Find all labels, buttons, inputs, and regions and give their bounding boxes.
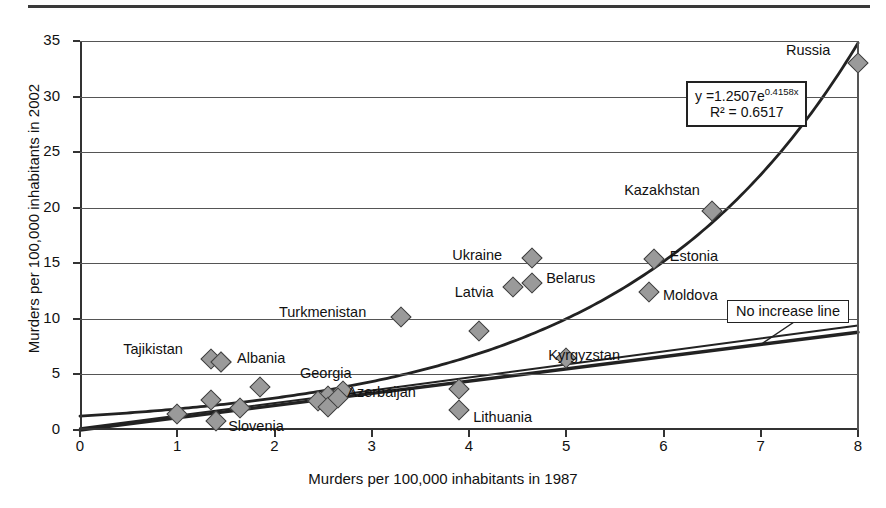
- x-tick-mark-7: [760, 430, 762, 437]
- x-tick-mark-6: [663, 430, 665, 437]
- point-label-tajikistan: Tajikistan: [123, 341, 183, 357]
- y-tick-mark-20: [73, 207, 80, 209]
- x-tick-label-8: 8: [838, 437, 878, 454]
- y-tick-mark-10: [73, 318, 80, 320]
- x-tick-label-6: 6: [644, 437, 684, 454]
- x-tick-mark-8: [857, 430, 859, 437]
- gridline-y-20: [80, 208, 858, 209]
- point-label-belarus: Belarus: [546, 270, 595, 286]
- point-label-moldova: Moldova: [663, 287, 718, 303]
- gridline-y-35: [80, 41, 858, 42]
- point-label-azerbaijan: Azerbaijan: [347, 384, 416, 400]
- equation-exponent: 0.4158x: [765, 86, 799, 97]
- point-label-latvia: Latvia: [455, 284, 494, 300]
- point-label-albania: Albania: [237, 350, 285, 366]
- x-tick-label-1: 1: [157, 437, 197, 454]
- x-tick-label-0: 0: [60, 437, 100, 454]
- point-label-kazakhstan: Kazakhstan: [624, 182, 700, 198]
- x-tick-label-7: 7: [741, 437, 781, 454]
- x-tick-label-5: 5: [546, 437, 586, 454]
- r-squared-text: R² = 0.6517: [695, 104, 798, 121]
- point-label-ukraine: Ukraine: [452, 247, 502, 263]
- point-label-lithuania: Lithuania: [473, 409, 532, 425]
- top-divider-rule: [28, 5, 870, 8]
- x-tick-mark-1: [176, 430, 178, 437]
- point-label-kyrgyzstan: Kyrgyzstan: [548, 347, 620, 363]
- y-tick-mark-15: [73, 262, 80, 264]
- trendline-equation-box: y =1.2507e0.4158x R² = 0.6517: [686, 81, 807, 127]
- no-increase-line-label: No increase line: [727, 300, 849, 323]
- point-label-turkmenistan: Turkmenistan: [279, 304, 366, 320]
- gridline-y-15: [80, 263, 858, 264]
- chart-figure: 05101520253035 012345678 TajikistanAlban…: [0, 0, 886, 508]
- point-label-slovenia: Slovenia: [228, 418, 284, 434]
- equation-text: y =1.2507e: [695, 88, 765, 104]
- x-tick-label-3: 3: [352, 437, 392, 454]
- x-tick-mark-3: [371, 430, 373, 437]
- y-tick-label-0: 0: [20, 420, 60, 437]
- plot-right-edge: [857, 41, 859, 430]
- point-label-georgia: Georgia: [300, 365, 352, 381]
- gridline-y-5: [80, 374, 858, 375]
- x-tick-mark-5: [565, 430, 567, 437]
- x-tick-mark-4: [468, 430, 470, 437]
- y-tick-mark-30: [73, 96, 80, 98]
- y-tick-mark-5: [73, 373, 80, 375]
- y-axis-title: Murders per 100,000 inhabitants in 2002: [25, 39, 42, 399]
- x-tick-label-4: 4: [449, 437, 489, 454]
- point-label-russia: Russia: [786, 42, 830, 58]
- x-tick-mark-0: [79, 430, 81, 437]
- y-tick-mark-35: [73, 40, 80, 42]
- gridline-y-25: [80, 152, 858, 153]
- x-axis-title: Murders per 100,000 inhabitants in 1987: [0, 470, 886, 487]
- y-tick-mark-25: [73, 151, 80, 153]
- point-label-estonia: Estonia: [670, 248, 718, 264]
- x-tick-label-2: 2: [255, 437, 295, 454]
